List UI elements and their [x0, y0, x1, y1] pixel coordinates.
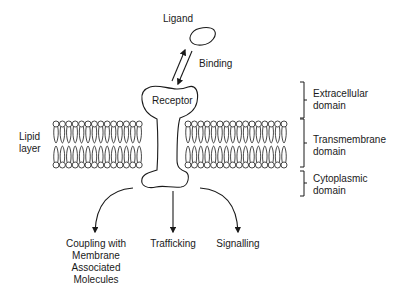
bracket-transmembrane: [300, 119, 307, 167]
binding-label: Binding: [199, 58, 232, 70]
coupling-line-4: Molecules: [58, 274, 134, 286]
bracket-cytoplasmic: [300, 171, 307, 196]
coupling-line-3: Associated: [58, 262, 134, 274]
coupling-label: Coupling with Membrane Associated Molecu…: [58, 238, 134, 286]
transmembrane-domain-label: Transmembrane domain: [313, 134, 386, 158]
lipid-layer-line-1: Lipid: [19, 131, 41, 143]
coupling-line-2: Membrane: [58, 250, 134, 262]
domain-brackets: [300, 82, 307, 196]
signalling-line-1: Signalling: [210, 238, 266, 250]
signalling-label: Signalling: [210, 238, 266, 250]
bracket-extracellular: [300, 82, 307, 118]
receptor-label: Receptor: [152, 95, 193, 107]
trafficking-line-1: Trafficking: [143, 238, 203, 250]
binding-arrow-up: [172, 50, 185, 81]
coupling-line-1: Coupling with: [58, 238, 134, 250]
arrow-coupling: [95, 188, 133, 232]
binding-arrow-down: [178, 51, 192, 84]
transmembrane-line-1: Transmembrane: [313, 134, 386, 146]
ligand-shape: [190, 28, 215, 46]
cytoplasmic-domain-label: Cytoplasmic domain: [313, 173, 367, 197]
cytoplasmic-line-2: domain: [313, 185, 367, 197]
lipid-layer-line-2: layer: [19, 143, 41, 155]
trafficking-label: Trafficking: [143, 238, 203, 250]
ligand-label: Ligand: [163, 13, 193, 25]
extracellular-domain-label: Extracellular domain: [313, 88, 368, 112]
extracellular-line-2: domain: [313, 100, 368, 112]
extracellular-line-1: Extracellular: [313, 88, 368, 100]
lipid-layer-label: Lipid layer: [19, 131, 41, 155]
transmembrane-line-2: domain: [313, 146, 386, 158]
arrow-signalling: [200, 188, 238, 232]
cytoplasmic-line-1: Cytoplasmic: [313, 173, 367, 185]
